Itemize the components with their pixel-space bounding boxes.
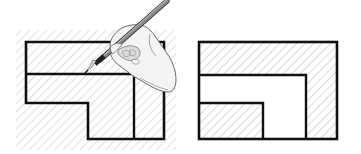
right-panel — [199, 42, 337, 139]
section-hatching-illustration: Section view hatching illustration: hand… — [0, 0, 361, 154]
left-panel — [16, 0, 176, 150]
